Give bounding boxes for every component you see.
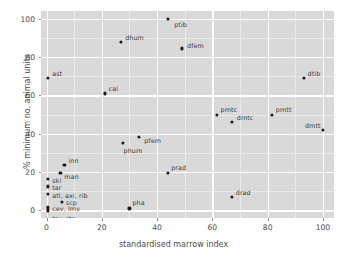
x-axis-tick-mark — [47, 218, 48, 221]
gridline-minor-horizontal — [41, 76, 334, 77]
data-point — [121, 142, 124, 145]
gridline-major-horizontal — [41, 134, 334, 135]
y-axis-tick-mark — [39, 210, 42, 211]
data-point — [138, 135, 141, 138]
gridline-major-vertical — [157, 11, 158, 218]
data-point-label: dhum — [125, 35, 144, 41]
data-point-label: cev, lmv — [52, 206, 80, 212]
x-axis-tick-label: 20 — [97, 223, 107, 232]
data-point-label: inn — [68, 158, 78, 164]
y-axis-tick-mark — [39, 95, 42, 96]
x-axis-tick-mark — [212, 218, 213, 221]
plot-panel: ptibdhumdfemastdtibcalpmtcpmttdmtcdmttpf… — [41, 11, 334, 218]
data-point-label: cal — [109, 86, 119, 92]
data-point-label: pmtt — [276, 107, 292, 113]
data-point — [59, 171, 62, 174]
data-point-label: pmtc — [221, 107, 238, 113]
gridline-minor-horizontal — [41, 38, 334, 39]
data-point-label: trv, stn — [52, 216, 76, 218]
data-point-label: phum — [124, 148, 143, 154]
x-axis-tick-label: 0 — [44, 223, 49, 232]
gridline-major-horizontal — [41, 57, 334, 58]
y-axis-tick-mark — [39, 134, 42, 135]
data-point-label: dtib — [308, 71, 321, 77]
x-axis-tick-mark — [268, 218, 269, 221]
x-axis-tick-mark — [323, 218, 324, 221]
data-point — [230, 121, 233, 124]
y-axis-tick-label: 100 — [13, 14, 35, 23]
y-axis-tick-mark — [39, 57, 42, 58]
gridline-major-horizontal — [41, 210, 334, 211]
data-point-label: dmtt — [305, 123, 321, 129]
gridline-major-vertical — [212, 11, 213, 218]
data-point-label: man — [64, 174, 79, 180]
data-point — [120, 40, 123, 43]
y-axis-tick-mark — [39, 19, 42, 20]
data-point — [302, 76, 305, 79]
y-axis-label: % minimum no. animal units — [23, 32, 32, 192]
gridline-major-vertical — [268, 11, 269, 218]
x-axis-tick-mark — [102, 218, 103, 221]
gridline-major-horizontal — [41, 19, 334, 20]
gridline-major-horizontal — [41, 95, 334, 96]
y-axis-tick-label: 0 — [13, 206, 35, 215]
x-axis-tick-label: 100 — [316, 223, 331, 232]
data-point — [215, 113, 218, 116]
data-point-label: drad — [236, 190, 251, 196]
x-axis-label: standardised marrow index — [0, 240, 347, 249]
data-point — [47, 76, 50, 79]
data-point-label: pfem — [144, 138, 161, 144]
gridline-major-vertical — [102, 11, 103, 218]
data-point-label: pha — [132, 200, 144, 206]
x-axis-tick-label: 80 — [263, 223, 273, 232]
data-point — [63, 164, 66, 167]
data-point — [47, 192, 50, 195]
x-axis-tick-label: 40 — [152, 223, 162, 232]
data-point-label: ast — [52, 71, 62, 77]
data-point — [270, 113, 273, 116]
data-point-label: tar — [52, 185, 61, 191]
gridline-major-vertical — [323, 11, 324, 218]
data-point-label: ptib — [174, 22, 187, 28]
data-point — [47, 185, 50, 188]
data-point — [47, 177, 50, 180]
data-point — [230, 195, 233, 198]
data-point-label: dmtc — [237, 115, 254, 121]
data-point — [180, 47, 183, 50]
data-point-label: dfem — [187, 43, 204, 49]
gridline-major-horizontal — [41, 172, 334, 173]
gridline-minor-horizontal — [41, 115, 334, 116]
y-axis-tick-mark — [39, 172, 42, 173]
x-axis-tick-label: 60 — [208, 223, 218, 232]
data-point-label: prad — [171, 165, 186, 171]
gridline-minor-horizontal — [41, 153, 334, 154]
data-point — [60, 200, 63, 203]
x-axis-tick-mark — [157, 218, 158, 221]
data-point-label: skl — [52, 178, 61, 184]
data-point — [167, 171, 170, 174]
scatter-plot-figure: ptibdhumdfemastdtibcalpmtcpmttdmtcdmttpf… — [0, 0, 347, 260]
